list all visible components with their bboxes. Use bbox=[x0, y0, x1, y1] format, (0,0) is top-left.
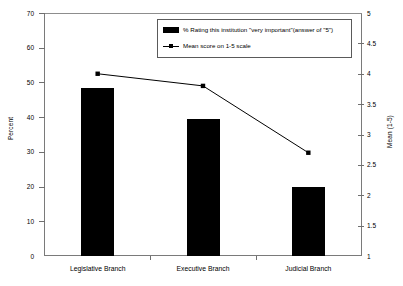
y-axis-left-tick-label: 10 bbox=[12, 218, 34, 225]
y-axis-right-tick-label: 3 bbox=[367, 131, 389, 138]
y-axis-right-tick-label: 1.5 bbox=[367, 222, 389, 229]
y-axis-left-tick-label: 60 bbox=[12, 44, 34, 51]
line-marker bbox=[306, 151, 310, 155]
legend-entry-bar: % Rating this institution "very importan… bbox=[163, 26, 333, 34]
x-axis-category-label: Legislative Branch bbox=[45, 264, 150, 273]
line-square-swatch-icon bbox=[163, 43, 179, 49]
y-axis-right-tick-label: 4 bbox=[367, 70, 389, 77]
x-axis-separator bbox=[150, 256, 151, 260]
y-axis-right-tick-label: 2 bbox=[367, 192, 389, 199]
y-axis-left-tick-label: 20 bbox=[12, 183, 34, 190]
line-marker bbox=[95, 72, 99, 76]
y-axis-right-tick-label: 3.5 bbox=[367, 101, 389, 108]
x-axis-category-label: Judicial Branch bbox=[256, 264, 361, 273]
bar-swatch-icon bbox=[163, 27, 179, 33]
y-axis-right-tick-label: 5 bbox=[367, 10, 389, 17]
x-axis-category-label: Executive Branch bbox=[150, 264, 255, 273]
y-axis-left-tick-label: 30 bbox=[12, 148, 34, 155]
legend: % Rating this institution "very importan… bbox=[157, 19, 352, 58]
y-axis-left-tick-label: 0 bbox=[12, 253, 34, 260]
y-axis-left-tick-label: 40 bbox=[12, 114, 34, 121]
legend-label-bar: % Rating this institution "very importan… bbox=[183, 26, 333, 34]
y-axis-left-tick-label: 50 bbox=[12, 79, 34, 86]
line-marker bbox=[201, 84, 205, 88]
y-axis-left-tick-label: 70 bbox=[12, 10, 34, 17]
chart-container: Percent Mean (1-5) 010203040506070 11.52… bbox=[0, 0, 403, 286]
y-axis-right-tick-label: 2.5 bbox=[367, 161, 389, 168]
legend-label-line: Mean score on 1-5 scale bbox=[183, 42, 251, 50]
legend-entry-line: Mean score on 1-5 scale bbox=[163, 42, 251, 50]
y-axis-right-tick-label: 4.5 bbox=[367, 40, 389, 47]
y-axis-right-tick-label: 1 bbox=[367, 253, 389, 260]
x-axis-separator bbox=[256, 256, 257, 260]
